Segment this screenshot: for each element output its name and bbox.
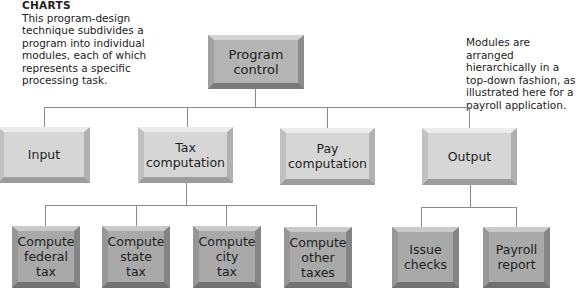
connector (45, 205, 317, 206)
caption-text: This program-design technique subdivides… (22, 12, 146, 87)
right-caption: Modules are arranged hierarchically in a… (466, 36, 576, 111)
module-tax-computation: Tax computation (138, 127, 233, 183)
module-label: Program control (229, 47, 284, 77)
connector (516, 207, 517, 227)
connector (469, 107, 470, 128)
left-caption: CHARTS This program-design technique sub… (22, 0, 172, 87)
connector (45, 205, 46, 226)
connector (255, 88, 256, 107)
module-compute-city-tax: Compute city tax (193, 226, 261, 288)
module-label: Compute other taxes (290, 235, 347, 280)
module-label: Pay computation (288, 141, 367, 171)
connector (186, 183, 187, 205)
connector (136, 205, 137, 226)
module-label: Tax computation (146, 140, 225, 170)
connector (316, 205, 317, 226)
module-label: Issue checks (404, 242, 447, 272)
module-label: Compute state tax (108, 234, 165, 279)
module-compute-federal-tax: Compute federal tax (12, 226, 80, 288)
caption-heading: CHARTS (22, 0, 172, 12)
connector (327, 107, 328, 128)
connector (226, 205, 227, 226)
module-label: Input (28, 147, 60, 162)
module-compute-state-tax: Compute state tax (102, 226, 170, 288)
module-output: Output (422, 128, 517, 185)
connector (44, 107, 45, 127)
connector (421, 207, 422, 227)
connector (421, 207, 517, 208)
module-label: Compute federal tax (18, 234, 75, 279)
module-label: Compute city tax (199, 234, 256, 279)
caption-text: Modules are arranged hierarchically in a… (466, 36, 576, 111)
connector (44, 107, 470, 108)
connector (187, 107, 188, 127)
module-label: Output (448, 149, 491, 164)
module-pay-computation: Pay computation (280, 128, 375, 185)
module-issue-checks: Issue checks (392, 227, 459, 288)
module-label: Payroll report (496, 242, 538, 272)
connector (470, 185, 471, 207)
module-compute-other-taxes: Compute other taxes (284, 227, 352, 288)
module-payroll-report: Payroll report (483, 227, 550, 288)
module-input: Input (0, 127, 90, 183)
module-program-control: Program control (208, 35, 304, 89)
